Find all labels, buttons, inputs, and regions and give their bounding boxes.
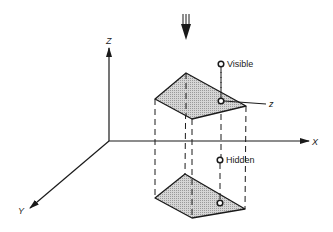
y-axis bbox=[30, 141, 109, 208]
hidden-point-icon bbox=[217, 157, 223, 163]
bottom-face bbox=[155, 174, 245, 218]
x-axis-label: X bbox=[311, 137, 319, 147]
projected-point-icon bbox=[217, 200, 223, 206]
z-marker-label: z bbox=[268, 99, 274, 109]
sample-points: Visible z Hidden bbox=[217, 59, 274, 206]
z-axis-label: Z bbox=[105, 36, 112, 46]
top-face bbox=[155, 73, 246, 119]
visible-point-icon bbox=[218, 61, 224, 67]
z-buffer-diagram: Z X Y Visible z Hidden bbox=[0, 0, 333, 232]
visible-label: Visible bbox=[227, 59, 253, 69]
z-point-icon bbox=[218, 98, 224, 104]
view-direction-arrow-icon bbox=[181, 14, 191, 40]
y-axis-label: Y bbox=[18, 206, 25, 216]
hidden-label: Hidden bbox=[226, 155, 255, 165]
